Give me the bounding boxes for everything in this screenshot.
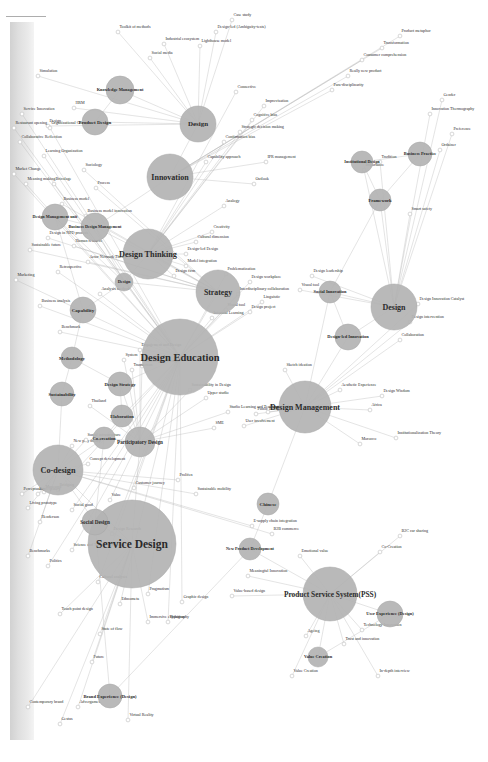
leaf-node[interactable] [20, 492, 24, 496]
leaf-node[interactable] [330, 88, 334, 92]
leaf-node[interactable] [108, 498, 112, 502]
leaf-node[interactable] [26, 705, 30, 709]
leaf-node[interactable] [28, 248, 32, 252]
leaf-node[interactable] [56, 270, 60, 274]
leaf-node[interactable] [162, 42, 166, 46]
leaf-node[interactable] [98, 292, 102, 296]
leaf-node[interactable] [338, 388, 342, 392]
leaf-node[interactable] [222, 204, 226, 208]
leaf-node[interactable] [12, 126, 16, 130]
leaf-node[interactable] [12, 172, 16, 176]
leaf-node[interactable] [42, 154, 46, 158]
leaf-node[interactable] [346, 74, 350, 78]
leaf-node[interactable] [368, 408, 372, 412]
leaf-node[interactable] [380, 46, 384, 50]
leaf-node[interactable] [26, 554, 30, 558]
leaf-node[interactable] [376, 674, 380, 678]
leaf-node[interactable] [408, 212, 412, 216]
leaf-node[interactable] [283, 368, 287, 372]
leaf-node[interactable] [98, 632, 102, 636]
leaf-node[interactable] [440, 98, 444, 102]
leaf-node[interactable] [248, 280, 252, 284]
leaf-node[interactable] [148, 56, 152, 60]
leaf-node[interactable] [76, 705, 80, 709]
leaf-node[interactable] [24, 182, 28, 186]
leaf-node[interactable] [250, 524, 254, 528]
leaf-node[interactable] [14, 278, 18, 282]
leaf-node[interactable] [58, 612, 62, 616]
leaf-node[interactable] [26, 506, 30, 510]
leaf-node[interactable] [132, 486, 136, 490]
leaf-node[interactable] [146, 620, 150, 624]
leaf-node[interactable] [72, 244, 76, 248]
leaf-node[interactable] [230, 594, 234, 598]
leaf-node[interactable] [310, 274, 314, 278]
leaf-node[interactable] [246, 574, 250, 578]
leaf-node[interactable] [172, 274, 176, 278]
leaf-node[interactable] [38, 520, 42, 524]
leaf-node[interactable] [88, 404, 92, 408]
leaf-node[interactable] [378, 550, 382, 554]
leaf-node[interactable] [72, 106, 76, 110]
leaf-node[interactable] [222, 140, 226, 144]
leaf-node[interactable] [116, 30, 120, 34]
leaf-node[interactable] [242, 424, 246, 428]
leaf-node[interactable] [204, 160, 208, 164]
leaf-node[interactable] [428, 112, 432, 116]
leaf-node[interactable] [176, 478, 180, 482]
leaf-node[interactable] [20, 112, 24, 116]
leaf-node[interactable] [130, 368, 134, 372]
leaf-node[interactable] [84, 438, 88, 442]
leaf-node[interactable] [36, 74, 40, 78]
leaf-node[interactable] [48, 126, 52, 130]
leaf-node[interactable] [118, 602, 122, 606]
leaf-node[interactable] [398, 34, 402, 38]
leaf-node[interactable] [204, 396, 208, 400]
leaf-node[interactable] [146, 592, 150, 596]
leaf-node[interactable] [46, 564, 50, 568]
leaf-node[interactable] [394, 436, 398, 440]
leaf-node[interactable] [270, 532, 274, 536]
leaf-node[interactable] [298, 554, 302, 558]
leaf-node[interactable] [238, 130, 242, 134]
leaf-node[interactable] [18, 140, 22, 144]
leaf-node[interactable] [122, 358, 126, 362]
leaf-node[interactable] [194, 492, 198, 496]
leaf-node[interactable] [290, 674, 294, 678]
leaf-node[interactable] [262, 104, 266, 108]
leaf-node[interactable] [126, 718, 130, 722]
leaf-node[interactable] [58, 722, 62, 726]
leaf-node[interactable] [96, 580, 100, 584]
leaf-node[interactable] [46, 236, 50, 240]
leaf-node[interactable] [252, 182, 256, 186]
leaf-node[interactable] [184, 264, 188, 268]
leaf-node[interactable] [82, 168, 86, 172]
leaf-node[interactable] [194, 240, 198, 244]
leaf-node[interactable] [398, 534, 402, 538]
leaf-node[interactable] [212, 426, 216, 430]
leaf-node[interactable] [380, 394, 384, 398]
leaf-node[interactable] [358, 442, 362, 446]
leaf-node[interactable] [304, 634, 308, 638]
leaf-node[interactable] [38, 304, 42, 308]
leaf-node[interactable] [360, 628, 364, 632]
leaf-node[interactable] [70, 508, 74, 512]
leaf-node[interactable] [234, 90, 238, 94]
leaf-node[interactable] [70, 444, 74, 448]
leaf-node[interactable] [52, 182, 56, 186]
leaf-node[interactable] [248, 310, 252, 314]
leaf-node[interactable] [198, 44, 202, 48]
leaf-node[interactable] [184, 252, 188, 256]
leaf-node[interactable] [58, 330, 62, 334]
leaf-node[interactable] [298, 288, 302, 292]
leaf-node[interactable] [86, 462, 90, 466]
leaf-node[interactable] [210, 316, 214, 320]
leaf-node[interactable] [230, 18, 234, 22]
leaf-node[interactable] [438, 148, 442, 152]
leaf-node[interactable] [90, 660, 94, 664]
leaf-node[interactable] [226, 410, 230, 414]
leaf-node[interactable] [180, 600, 184, 604]
leaf-node[interactable] [360, 58, 364, 62]
leaf-node[interactable] [254, 412, 258, 416]
leaf-node[interactable] [398, 338, 402, 342]
